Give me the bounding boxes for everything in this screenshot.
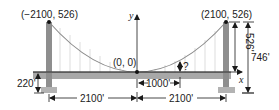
- bridge-deck: [33, 72, 231, 79]
- x-axis-label: x: [238, 74, 244, 85]
- dimension-746-label: 746': [251, 52, 270, 63]
- right-tower-top-point: [224, 20, 228, 24]
- left-tower-top-point: [47, 20, 51, 24]
- main-cable-parabola: [49, 22, 226, 72]
- dimension-526: [229, 22, 240, 71]
- dimension-220-label: 220': [17, 78, 36, 89]
- suspension-bridge-diagram: y x (−2100, 526) (2100, 526) (0, 0) 526'…: [0, 0, 279, 110]
- left-footing: [41, 87, 57, 93]
- dimension-526-label: 526': [244, 33, 255, 52]
- dimension-unknown-label: ?: [183, 61, 189, 72]
- dimension-2100-right-label: 2100': [169, 93, 193, 104]
- right-tower: [223, 22, 229, 88]
- right-top-coordinate-label: (2100, 526): [201, 9, 252, 20]
- y-axis-label: y: [128, 10, 134, 21]
- dimension-2100-left-label: 2100': [80, 93, 104, 104]
- suspender-cables: [60, 28, 215, 72]
- origin-coordinate-label: (0, 0): [113, 57, 136, 68]
- origin-point: [135, 70, 139, 74]
- right-footing: [218, 87, 235, 93]
- left-tower: [46, 22, 52, 88]
- dimension-1000-label: 1000': [146, 78, 170, 89]
- left-top-coordinate-label: (−2100, 526): [21, 9, 78, 20]
